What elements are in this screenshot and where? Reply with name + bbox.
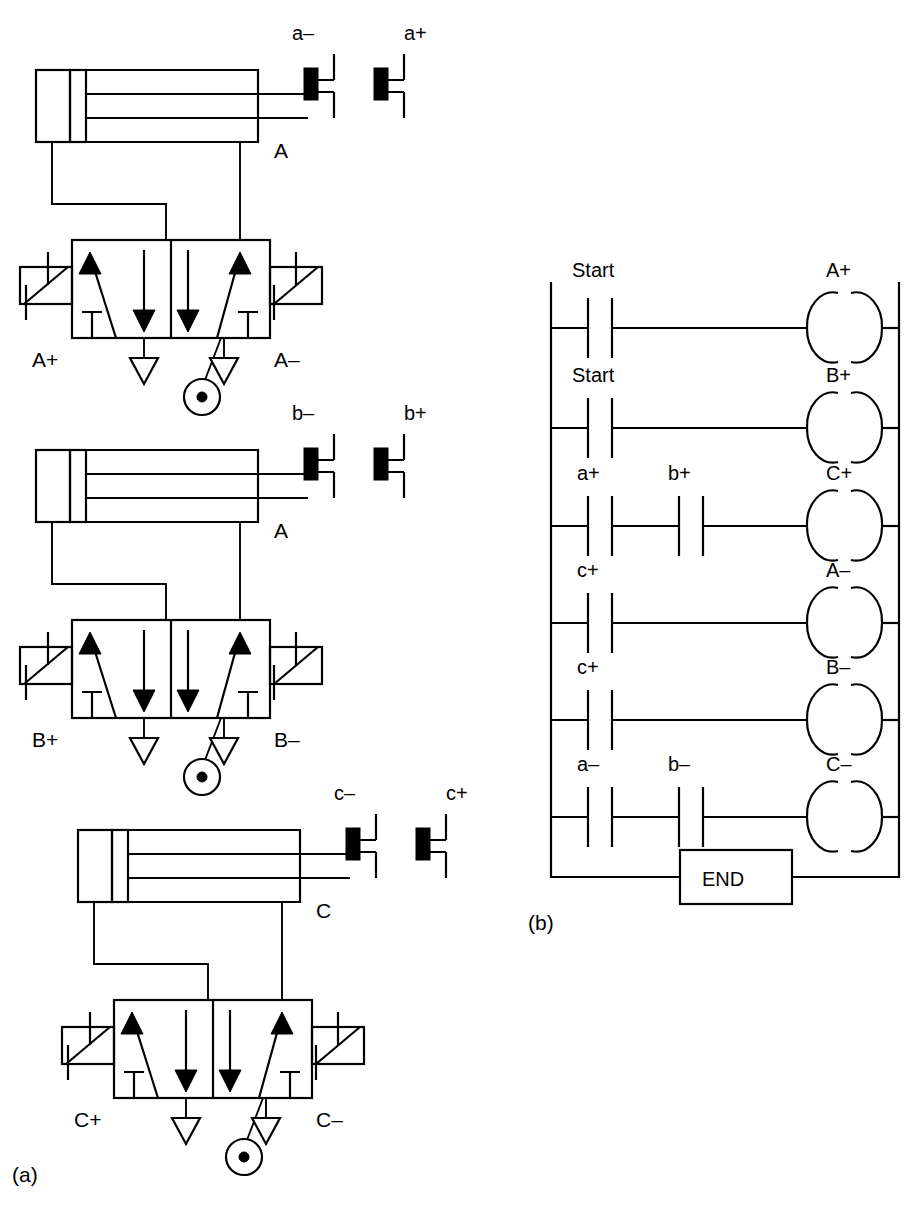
valve-b-right-position (177, 630, 258, 718)
valve-c-label-right: C– (316, 1108, 343, 1131)
cylinder-b: A (36, 450, 308, 542)
valve-c (114, 1000, 312, 1098)
rung-3-contact-2-label: b+ (668, 462, 691, 484)
limit-switch-label-a-plus: a+ (404, 22, 427, 44)
rung-1-coil-label: A+ (826, 259, 851, 281)
contact-no-start-2[interactable] (588, 398, 612, 458)
pipe-c-cap-end (94, 902, 208, 1000)
rung-5-coil-label: B– (826, 656, 851, 678)
end-block-label: END (702, 868, 744, 890)
coil-c-minus[interactable] (807, 781, 882, 851)
rung-6-coil-label: C– (826, 753, 852, 775)
valve-b-label-left: B+ (32, 728, 58, 751)
rung-4-contact-1-label: c+ (577, 559, 599, 581)
valve-b-solenoid-right[interactable] (270, 632, 322, 700)
figure-root: a– a+ A (0, 0, 924, 1225)
valve-a-left-position (79, 250, 155, 338)
contact-no-a-minus[interactable] (588, 787, 612, 847)
valve-b-exhaust-supply (130, 718, 238, 795)
cylinder-c: C (78, 830, 350, 922)
limit-switch-a-minus[interactable] (304, 54, 334, 118)
diagram-canvas: a– a+ A (0, 0, 924, 1225)
valve-c-left-position (121, 1010, 197, 1098)
rung-3-contact-1-label: a+ (577, 462, 600, 484)
ladder-rung-2: Start B+ (551, 364, 899, 463)
ladder-rung-3: a+ b+ C+ (551, 462, 899, 561)
exhaust-icon-b-left (130, 738, 158, 764)
valve-a-exhaust-supply (130, 338, 238, 415)
ladder-rung-end: END (551, 850, 899, 904)
ladder-rung-6: a– b– C– (551, 753, 899, 852)
rung-2-coil-label: B+ (826, 364, 851, 386)
cylinder-a-label: A (274, 139, 288, 162)
limit-switch-label-a-minus: a– (292, 22, 315, 44)
rung-6-contact-2-label: b– (668, 753, 691, 775)
contact-no-a-plus[interactable] (588, 496, 612, 556)
limit-switch-a-plus[interactable] (374, 54, 404, 118)
valve-a (72, 240, 270, 338)
panel-b-label: (b) (528, 911, 554, 934)
rung-6-contact-1-label: a– (577, 753, 600, 775)
pipe-a-cap-end (52, 142, 166, 240)
coil-b-minus[interactable] (807, 684, 882, 754)
valve-a-solenoid-left[interactable] (20, 252, 72, 320)
contact-no-b-minus[interactable] (679, 787, 703, 847)
limit-switch-c-plus[interactable] (416, 814, 446, 878)
exhaust-icon-b-right (210, 738, 238, 764)
rung-3-coil-label: C+ (826, 462, 852, 484)
limit-switch-label-b-minus: b– (292, 402, 315, 424)
coil-c-plus[interactable] (807, 490, 882, 560)
limit-switch-b-plus[interactable] (374, 434, 404, 498)
rung-5-contact-1-label: c+ (577, 656, 599, 678)
contact-no-start-1[interactable] (588, 298, 612, 358)
pneumatic-circuit-a: a– a+ A (20, 22, 427, 415)
exhaust-icon-a-right (210, 358, 238, 384)
valve-a-right-position (177, 250, 258, 338)
limit-switch-label-b-plus: b+ (404, 402, 427, 424)
valve-a-solenoid-right[interactable] (270, 252, 322, 320)
coil-b-plus[interactable] (807, 392, 882, 462)
ladder-rung-4: c+ A– (551, 559, 899, 658)
coil-a-minus[interactable] (807, 587, 882, 657)
coil-a-plus[interactable] (807, 292, 882, 362)
pipe-b-cap-end (52, 522, 166, 620)
valve-b-solenoid-left[interactable] (20, 632, 72, 700)
limit-switch-label-c-minus: c– (334, 782, 356, 804)
valve-b-left-position (79, 630, 155, 718)
rung-4-coil-label: A– (826, 559, 851, 581)
exhaust-icon-c-left (172, 1118, 200, 1144)
contact-no-c-plus-1[interactable] (588, 593, 612, 653)
valve-a-label-right: A– (274, 348, 300, 371)
valve-b-label-right: B– (274, 728, 300, 751)
rung-1-contact-1-label: Start (572, 259, 615, 281)
contact-no-c-plus-2[interactable] (588, 690, 612, 750)
pneumatic-circuit-b: b– b+ A (20, 402, 427, 795)
cylinder-b-label: A (274, 519, 288, 542)
cylinder-a: A (36, 70, 308, 162)
contact-no-b-plus[interactable] (679, 496, 703, 556)
valve-c-solenoid-right[interactable] (312, 1012, 364, 1080)
valve-b (72, 620, 270, 718)
valve-a-label-left: A+ (32, 348, 58, 371)
valve-c-label-left: C+ (74, 1108, 101, 1131)
pneumatic-circuit-c: c– c+ C (62, 782, 468, 1175)
limit-switch-c-minus[interactable] (346, 814, 376, 878)
cylinder-c-label: C (316, 899, 331, 922)
ladder-rung-1: Start A+ (551, 259, 899, 363)
ladder-rung-5: c+ B– (551, 656, 899, 755)
rung-2-contact-1-label: Start (572, 364, 615, 386)
valve-c-solenoid-left[interactable] (62, 1012, 114, 1080)
exhaust-icon-a-left (130, 358, 158, 384)
valve-c-exhaust-supply (172, 1098, 280, 1175)
valve-c-right-position (219, 1010, 300, 1098)
exhaust-icon-c-right (252, 1118, 280, 1144)
limit-switch-label-c-plus: c+ (446, 782, 468, 804)
limit-switch-b-minus[interactable] (304, 434, 334, 498)
ladder-diagram: Start A+ Start (528, 259, 899, 934)
panel-a-label: (a) (12, 1163, 38, 1186)
